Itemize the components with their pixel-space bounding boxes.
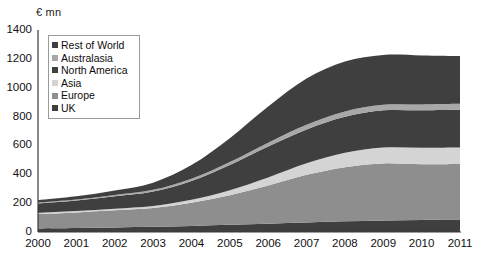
x-axis-tick-label: 2010: [402, 238, 442, 250]
legend-item-label: Asia: [61, 78, 81, 89]
legend-item-label: North America: [61, 65, 128, 76]
x-axis-tick-label: 2008: [325, 238, 365, 250]
y-axis-tick-label: 400: [0, 168, 32, 180]
y-axis-tick-label: 0: [0, 226, 32, 238]
legend-item: North America: [52, 64, 135, 77]
legend-item-label: Australasia: [61, 53, 113, 64]
x-axis-tick-label: 2009: [363, 238, 403, 250]
x-axis-tick-label: 2003: [133, 238, 173, 250]
chart-container: € mn 0200400600800100012001400 200020012…: [0, 0, 478, 260]
y-axis-unit-label: € mn: [36, 6, 61, 18]
y-axis-tick-label: 1000: [0, 82, 32, 94]
legend-item-label: Europe: [61, 90, 95, 101]
legend-swatch-icon: [52, 80, 58, 86]
x-axis-tick-label: 2001: [56, 238, 96, 250]
x-axis-tick-label: 2000: [18, 238, 58, 250]
x-axis-tick-label: 2006: [248, 238, 288, 250]
legend-swatch-icon: [52, 42, 58, 48]
legend-swatch-icon: [52, 55, 58, 61]
y-axis-tick-label: 200: [0, 197, 32, 209]
legend-item-label: UK: [61, 103, 76, 114]
legend-item: Asia: [52, 77, 135, 90]
legend-swatch-icon: [52, 93, 58, 99]
y-axis-tick-label: 600: [0, 139, 32, 151]
legend-item: Rest of World: [52, 39, 135, 52]
y-axis-tick-label: 1400: [0, 24, 32, 36]
x-axis-tick-label: 2007: [287, 238, 327, 250]
legend-swatch-icon: [52, 67, 58, 73]
y-axis-tick-label: 800: [0, 111, 32, 123]
legend: Rest of WorldAustralasiaNorth AmericaAsi…: [48, 35, 140, 119]
legend-swatch-icon: [52, 105, 58, 111]
legend-item-label: Rest of World: [61, 40, 124, 51]
legend-item: UK: [52, 102, 135, 115]
x-axis-tick-label: 2004: [171, 238, 211, 250]
y-axis-tick-label: 1200: [0, 53, 32, 65]
x-axis-tick-label: 2011: [440, 238, 478, 250]
x-axis-tick-label: 2005: [210, 238, 250, 250]
legend-item: Europe: [52, 89, 135, 102]
legend-item: Australasia: [52, 52, 135, 65]
x-axis-tick-label: 2002: [95, 238, 135, 250]
